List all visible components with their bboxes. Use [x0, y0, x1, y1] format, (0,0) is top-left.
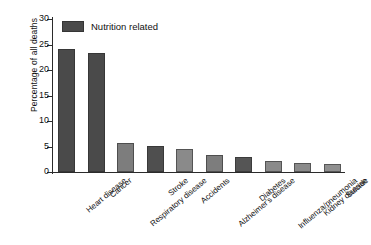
bar — [176, 149, 193, 172]
x-tick-label: Cancer — [108, 176, 134, 200]
plot-area: 051015202530 — [52, 19, 347, 172]
legend: Nutrition related — [62, 21, 158, 32]
bar — [147, 146, 164, 172]
bar — [265, 161, 282, 172]
bar — [58, 49, 75, 172]
y-tick-label: 10 — [39, 115, 49, 126]
x-axis-line — [52, 172, 345, 173]
y-tick-label: 0 — [44, 166, 49, 177]
legend-swatch-nutrition-related — [62, 21, 84, 32]
y-tick-label: 20 — [39, 64, 49, 75]
y-tick-label: 5 — [44, 141, 49, 152]
bar — [324, 164, 341, 172]
y-axis-title: Percentage of all deaths — [29, 0, 39, 145]
x-tick-label: Alzheimer's disease — [237, 176, 298, 229]
y-tick-label: 25 — [39, 39, 49, 50]
bar — [206, 155, 223, 172]
bar — [294, 163, 311, 172]
bar — [88, 53, 105, 172]
y-tick-label: 30 — [39, 13, 49, 24]
y-tick-label: 15 — [39, 90, 49, 101]
bar — [117, 143, 134, 172]
legend-label-nutrition-related: Nutrition related — [91, 21, 158, 32]
bar — [235, 157, 252, 172]
